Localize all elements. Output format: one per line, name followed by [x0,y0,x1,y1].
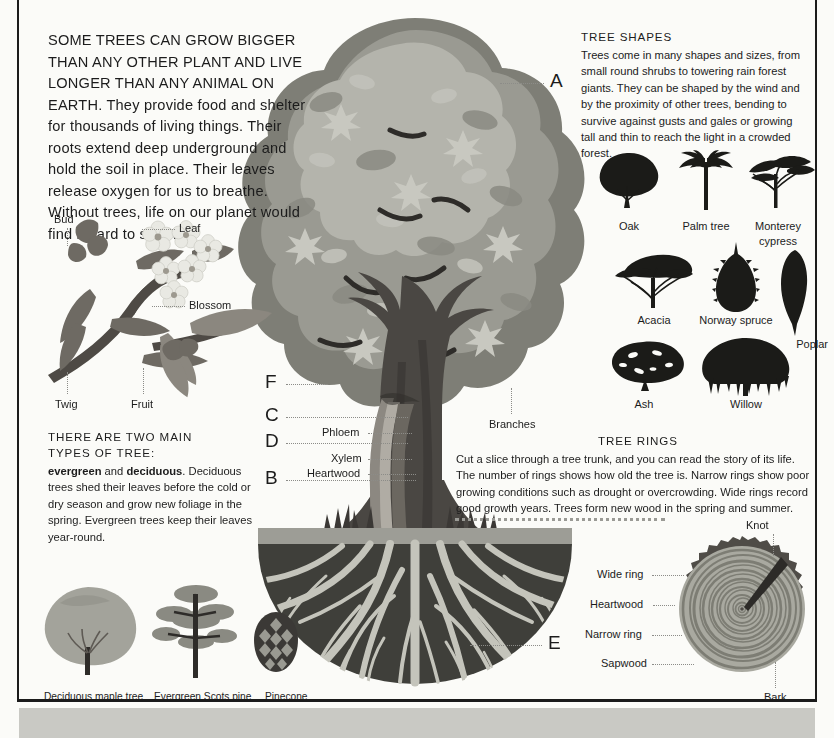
label-ash: Ash [608,398,680,410]
leader-heartwood [368,474,416,476]
label-norway-spruce: Norway spruce [688,314,784,326]
silhouette-monterey-cypress [743,154,815,208]
leader-branches [511,388,513,414]
label-heartwood: Heartwood [307,467,360,479]
leader-twig [67,372,69,394]
tree-shapes-title: TREE SHAPES [581,30,672,43]
types-mid: and [102,465,127,477]
label-phloem: Phloem [322,426,359,438]
bottom-gray-band [19,708,815,738]
tree-rings-paragraph: Cut a slice through a tree trunk, and yo… [456,451,812,517]
label-blossom: Blossom [189,299,231,311]
silhouette-poplar [779,250,809,336]
tree-rings-title: TREE RINGS [598,434,678,447]
types-title-line2: TYPES OF TREE: [48,446,155,459]
types-bold-evergreen: evergreen [48,465,102,477]
types-paragraph: evergreen and deciduous. Deciduous trees… [48,463,253,545]
leader-f [286,384,328,386]
leader-d [286,443,408,445]
caption-pinecone: Pinecone [265,691,307,702]
leader-a [500,83,544,85]
evergreen-scots-pine-illustration [152,580,238,680]
twig-diagram-illustration [40,215,290,385]
leader-bark [775,662,777,688]
label-leaf: Leaf [179,222,200,234]
leader-e [470,645,542,647]
callout-letter-b: B [265,467,278,489]
leader-narrow-ring [652,635,682,637]
label-branches: Branches [489,418,535,430]
label-bark: Bark [764,691,787,703]
label-rings-heartwood: Heartwood [590,598,643,610]
leader-b [286,480,416,482]
label-narrow-ring: Narrow ring [585,628,642,640]
leader-xylem [368,459,412,461]
callout-letter-d: D [265,430,279,452]
label-wide-ring: Wide ring [597,568,643,580]
leader-bud [67,228,69,246]
leader-leaf [142,229,175,231]
deciduous-maple-illustration [40,585,140,677]
types-title-line1: THERE ARE TWO MAIN [48,430,192,443]
callout-letter-e: E [548,632,561,654]
callout-letter-f: F [265,371,277,393]
silhouette-ash [609,341,687,391]
leader-c [286,417,408,419]
leader-blossom [152,306,185,308]
silhouette-norway-spruce [712,242,760,314]
frame-border-left [17,0,19,701]
label-monterey-cypress: Monterey [736,220,820,232]
connector-trunk-to-rings [455,518,665,524]
label-acacia: Acacia [608,314,700,326]
leader-rings-heartwood [653,605,675,607]
leader-phloem [368,433,412,435]
intro-paragraph: SOME TREES CAN GROW BIGGER THAN ANY OTHE… [48,30,313,245]
silhouette-palm-tree [678,150,734,210]
label-fruit: Fruit [131,398,153,410]
infographic-page: SOME TREES CAN GROW BIGGER THAN ANY OTHE… [0,0,834,738]
pinecone-illustration [248,610,304,676]
tree-ring-cross-section [668,535,816,683]
label-sapwood: Sapwood [601,657,647,669]
leader-sapwood [652,664,694,666]
label-xylem: Xylem [331,452,362,464]
leader-knot [773,534,775,556]
label-oak: Oak [597,220,661,232]
callout-letter-c: C [265,404,279,426]
caption-evergreen-pine: Evergreen Scots pine [154,691,251,702]
leader-fruit [143,368,145,394]
callout-letter-a: A [550,70,563,92]
tree-shapes-paragraph: Trees come in many shapes and sizes, fro… [581,47,809,162]
caption-deciduous-maple: Deciduous maple tree [44,691,143,702]
label-palm-tree: Palm tree [672,220,740,232]
silhouette-acacia [613,252,695,308]
types-bold-deciduous: deciduous [126,465,182,477]
silhouette-willow [700,338,792,396]
label-bud: Bud [54,213,74,225]
leader-wide-ring [652,575,684,577]
label-willow: Willow [708,398,784,410]
silhouette-oak [597,152,661,210]
label-twig: Twig [55,398,78,410]
label-knot: Knot [746,519,769,531]
root-system [258,544,572,684]
